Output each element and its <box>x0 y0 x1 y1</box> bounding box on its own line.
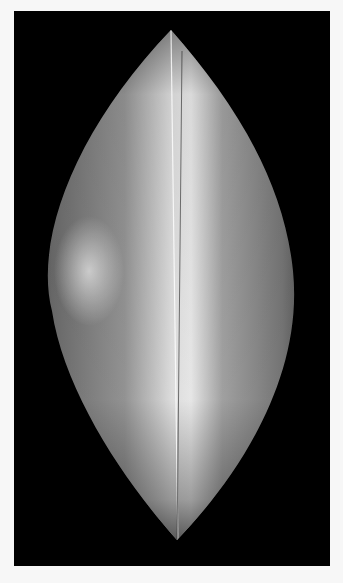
radiograph-image <box>14 11 330 566</box>
radiograph-frame <box>14 11 330 566</box>
